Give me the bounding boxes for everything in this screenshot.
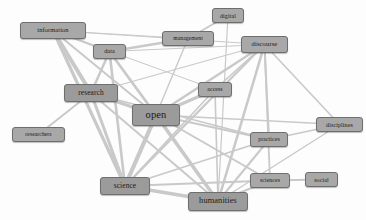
graph-node-management[interactable]: management: [162, 31, 214, 46]
graph-node-label: sciences: [260, 177, 280, 183]
graph-node-data[interactable]: data: [93, 44, 126, 59]
graph-node-sciences[interactable]: sciences: [250, 173, 290, 188]
graph-node-label: data: [104, 48, 115, 54]
edge: [265, 45, 340, 125]
graph-node-label: digital: [220, 12, 236, 18]
graph-node-label: research: [78, 89, 103, 96]
graph-node-label: humanities: [199, 197, 237, 205]
graph-node-label: access: [207, 86, 222, 92]
graph-node-researchers[interactable]: researchers: [12, 127, 65, 142]
edge: [265, 45, 271, 181]
graph-node-research[interactable]: research: [64, 84, 118, 102]
graph-node-label: discourse: [252, 41, 278, 48]
graph-node-label: practices: [258, 136, 280, 142]
graph-node-information[interactable]: information: [20, 22, 86, 39]
graph-node-practices[interactable]: practices: [250, 132, 288, 147]
network-graph: informationdatamanagementdigitaldiscours…: [0, 0, 366, 220]
graph-node-label: researchers: [25, 131, 51, 137]
graph-node-humanities[interactable]: humanities: [188, 192, 248, 211]
graph-node-label: information: [37, 27, 68, 33]
graph-node-label: open: [146, 109, 167, 120]
graph-node-label: disciplines: [326, 121, 353, 127]
graph-node-science[interactable]: science: [100, 177, 150, 195]
graph-node-disciplines[interactable]: disciplines: [316, 117, 363, 132]
graph-node-access[interactable]: access: [198, 82, 232, 97]
graph-node-discourse[interactable]: discourse: [241, 36, 288, 53]
graph-node-social[interactable]: social: [305, 172, 338, 187]
graph-node-open[interactable]: open: [132, 104, 180, 126]
graph-node-label: science: [114, 182, 136, 189]
graph-node-label: management: [173, 35, 203, 41]
graph-node-label: social: [314, 176, 329, 182]
graph-node-digital[interactable]: digital: [212, 8, 244, 23]
edge: [215, 90, 218, 202]
